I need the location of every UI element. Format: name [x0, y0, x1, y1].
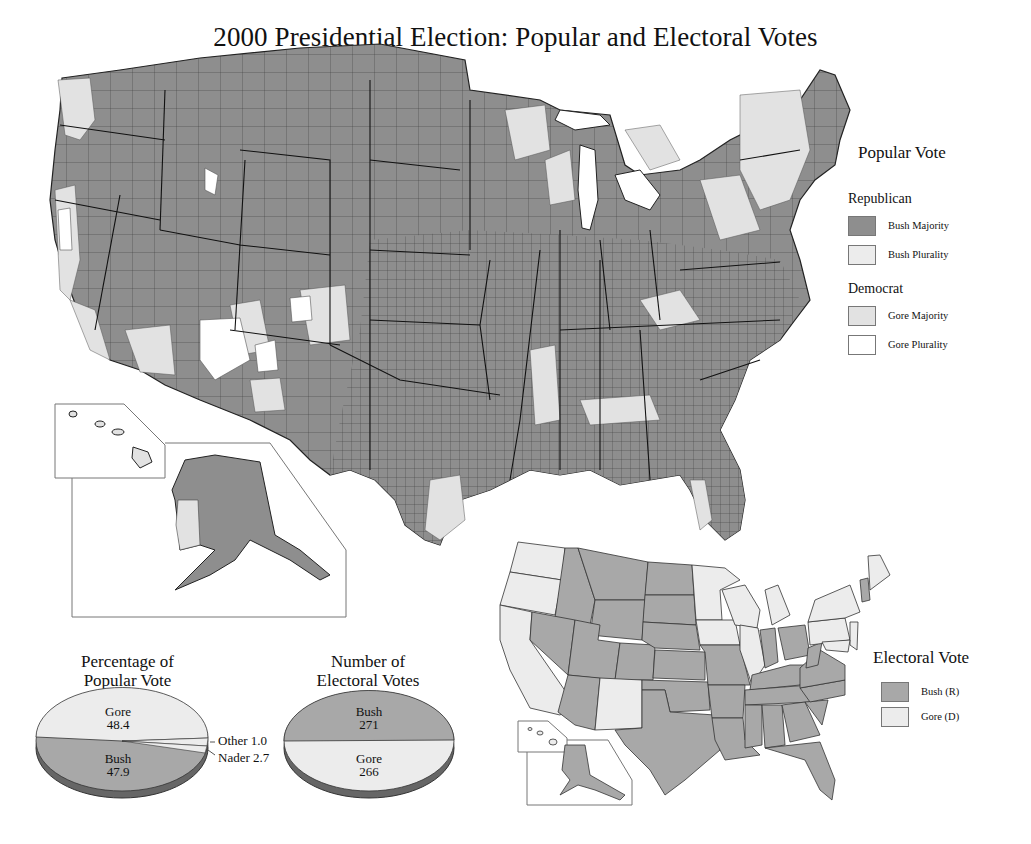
electoral-slice-gore-label: Gore266 — [339, 752, 399, 778]
electoral-vote-pie — [0, 0, 1031, 844]
electoral-slice-bush-label: Bush271 — [339, 705, 399, 731]
